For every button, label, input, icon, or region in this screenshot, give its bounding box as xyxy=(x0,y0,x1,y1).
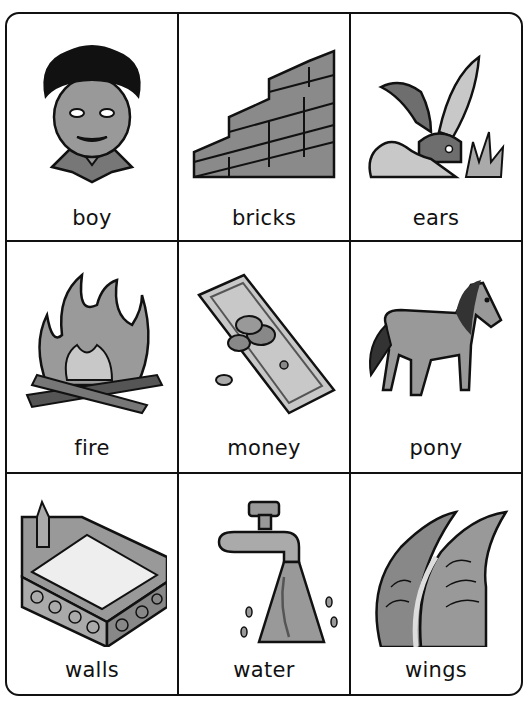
card-label: wings xyxy=(351,658,521,682)
card-pony: pony xyxy=(351,242,521,474)
brick-steps-icon xyxy=(187,28,341,196)
campfire-icon xyxy=(15,256,169,424)
card-label: ears xyxy=(351,206,521,230)
card-label: walls xyxy=(7,658,177,682)
card-fire: fire xyxy=(7,242,179,474)
rabbit-ears-icon xyxy=(359,28,513,196)
card-label: water xyxy=(179,658,349,682)
card-water: water xyxy=(179,474,351,694)
card-label: fire xyxy=(7,436,177,460)
boy-face-icon xyxy=(15,28,169,196)
card-money: money xyxy=(179,242,351,474)
stone-walls-icon xyxy=(15,488,169,656)
water-tap-icon xyxy=(187,488,341,656)
card-boy: boy xyxy=(7,14,179,242)
card-label: bricks xyxy=(179,206,349,230)
card-wings: wings xyxy=(351,474,521,694)
card-label: boy xyxy=(7,206,177,230)
card-label: money xyxy=(179,436,349,460)
card-bricks: bricks xyxy=(179,14,351,242)
picture-card-grid: boy bricks ears xyxy=(5,12,523,696)
pony-icon xyxy=(359,256,513,424)
card-ears: ears xyxy=(351,14,521,242)
money-bill-coins-icon xyxy=(187,256,341,424)
card-label: pony xyxy=(351,436,521,460)
card-walls: walls xyxy=(7,474,179,694)
wings-icon xyxy=(359,488,513,656)
